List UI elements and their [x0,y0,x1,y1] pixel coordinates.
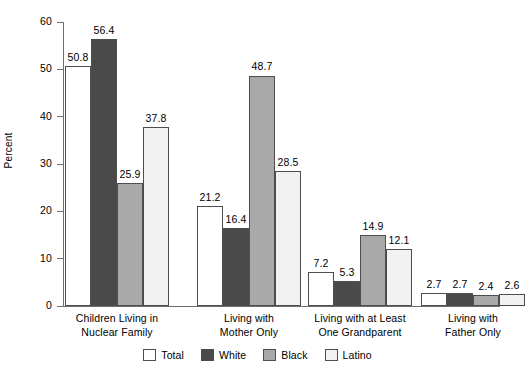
bar-value-label: 50.8 [58,51,98,63]
legend-swatch-icon [201,349,214,361]
legend-item: White [201,349,246,361]
bar-value-label: 2.6 [492,279,529,291]
bar [143,127,169,306]
legend-swatch-icon [325,349,338,361]
bar [421,293,447,306]
bar [117,183,143,306]
legend-label: Black [281,349,307,361]
x-axis-group-label: Children Living in Nuclear Family [47,312,187,339]
bar [334,281,360,306]
bar-value-label: 56.4 [84,24,124,36]
bar-value-label: 5.3 [327,266,367,278]
legend-swatch-icon [143,349,156,361]
bar [249,76,275,307]
bar-value-label: 16.4 [216,213,256,225]
legend-label: Latino [343,349,372,361]
x-axis-group-label: Living with Father Only [403,312,529,339]
bar [447,293,473,306]
bar-value-label: 21.2 [190,191,230,203]
legend-label: White [219,349,246,361]
legend-item: Black [263,349,307,361]
bar-value-label: 25.9 [110,168,150,180]
bar [473,295,499,306]
bar-value-label: 48.7 [242,60,282,72]
legend-item: Total [143,349,184,361]
bars-layer [0,0,515,306]
legend-item: Latino [325,349,372,361]
bar [65,66,91,306]
bar-value-label: 37.8 [136,112,176,124]
legend: TotalWhiteBlackLatino [0,349,515,361]
bar [223,228,249,306]
x-axis-line [63,306,500,307]
bar [386,249,412,306]
bar [499,294,525,306]
bar [275,171,301,306]
bar-value-label: 28.5 [268,156,308,168]
legend-swatch-icon [263,349,276,361]
legend-label: Total [161,349,184,361]
bar-value-label: 12.1 [379,234,419,246]
bar-value-label: 14.9 [353,220,393,232]
